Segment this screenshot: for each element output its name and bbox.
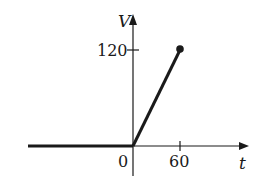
x-axis-arrow-icon — [239, 142, 249, 150]
x-tick-label-60: 60 — [169, 152, 189, 171]
x-tick-label-0: 0 — [118, 152, 128, 171]
chart: V 120 0 60 t — [0, 0, 264, 180]
y-tick-label-120: 120 — [97, 41, 128, 60]
x-axis-label: t — [239, 153, 246, 173]
y-axis-label: V — [118, 11, 132, 31]
endpoint-dot — [176, 45, 184, 53]
series-ramp-segment — [133, 50, 180, 146]
